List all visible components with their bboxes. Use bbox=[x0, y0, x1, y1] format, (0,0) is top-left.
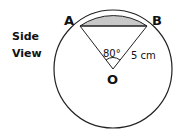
side-label-line2: View bbox=[12, 47, 42, 60]
shaded-segment bbox=[80, 16, 147, 26]
point-b-label: B bbox=[152, 13, 162, 28]
radius-label: 5 cm bbox=[131, 50, 156, 61]
center-label: O bbox=[107, 72, 118, 87]
side-label-line1: Side bbox=[12, 30, 39, 43]
circle-segment-diagram: Side View A B O 80° 5 cm bbox=[0, 0, 181, 136]
angle-label: 80° bbox=[103, 48, 121, 59]
point-a-label: A bbox=[64, 13, 74, 28]
